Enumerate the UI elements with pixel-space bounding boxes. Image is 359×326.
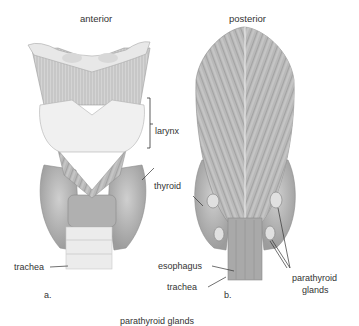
larynx-label: larynx [155,126,179,136]
anterior-view [28,42,154,269]
parathyroid-label-line1: parathyroid [292,273,337,283]
parathyroid-label-line2: glands [302,285,329,295]
figure-label-a: a. [44,290,52,300]
trachea-label-b: trachea [167,282,197,292]
thyroid-label: thyroid [154,181,181,191]
trachea-label-a: trachea [14,262,44,272]
anterior-heading: anterior [80,14,112,24]
figure-label-b: b. [224,290,232,300]
cutoff-caption: parathyroid glands [120,316,194,326]
posterior-heading: posterior [229,14,266,24]
posterior-view [193,27,295,287]
esophagus-label: esophagus [158,261,202,271]
